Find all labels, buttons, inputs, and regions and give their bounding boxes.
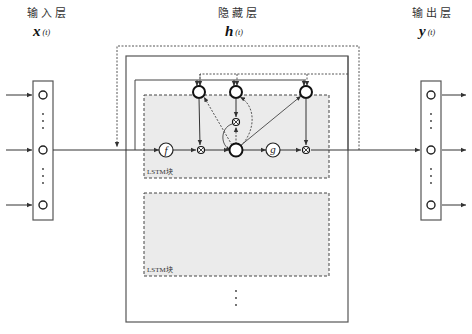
output-arrows — [442, 95, 466, 205]
multiply-icon — [303, 147, 310, 154]
output-neuron — [427, 201, 435, 209]
ellipsis-icon — [235, 290, 237, 306]
input-neuron — [39, 201, 47, 209]
input-arrows — [6, 95, 32, 205]
output-neuron — [427, 146, 435, 154]
input-neuron — [39, 146, 47, 154]
multiply-icon — [198, 147, 205, 154]
lstm-block-1-label: LSTM块 — [147, 166, 173, 176]
output-neuron — [427, 91, 435, 99]
input-layer-box — [33, 81, 53, 220]
input-gate — [193, 86, 205, 98]
lstm-network-diagram: f g — [0, 0, 472, 334]
input-neuron — [39, 91, 47, 99]
activation-g-label: g — [270, 143, 276, 155]
output-layer-box — [421, 81, 441, 220]
multiply-icon — [233, 119, 240, 126]
forget-gate — [230, 86, 242, 98]
lstm-block-2-label: LSTM块 — [147, 264, 173, 274]
output-gate — [300, 86, 312, 98]
memory-cell — [230, 144, 243, 157]
